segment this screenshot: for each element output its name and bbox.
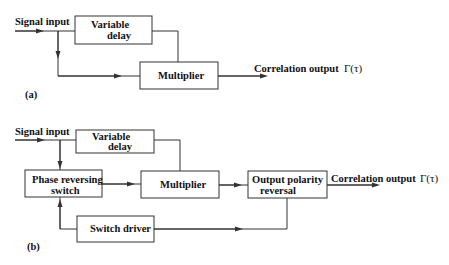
signal-input-label-a: Signal input: [15, 16, 70, 27]
driver-to-switch-line: [60, 197, 77, 229]
variable-delay-text-a-1: Variable: [91, 19, 129, 30]
polarity-text-2: reversal: [260, 185, 296, 196]
correlation-output-label-b: Correlation output: [331, 173, 416, 184]
delay-to-multiplier-line-b: [154, 140, 180, 171]
switch-driver-text: Switch driver: [90, 223, 151, 234]
variable-delay-text-b-2: delay: [108, 141, 133, 152]
multiplier-text-b: Multiplier: [160, 179, 206, 190]
phase-switch-text-2: switch: [51, 185, 80, 196]
diagram-a: Signal input Variable delay Multiplier C…: [15, 16, 362, 101]
gamma-tau-symbol-a: Γ(τ): [344, 62, 362, 75]
signal-input-label-b: Signal input: [15, 126, 70, 137]
polarity-text-1: Output polarity: [252, 174, 324, 185]
gamma-tau-symbol-b: Γ(τ): [420, 172, 438, 185]
panel-label-a: (a): [25, 89, 38, 101]
variable-delay-text-a-2: delay: [107, 30, 132, 41]
panel-label-b: (b): [27, 241, 40, 253]
phase-switch-text-1: Phase reversing: [32, 174, 103, 185]
diagram-b: Signal input Variable delay Phase revers…: [15, 126, 438, 253]
multiplier-text-a: Multiplier: [158, 70, 204, 81]
delay-to-multiplier-line-a: [152, 31, 178, 62]
correlator-block-diagram: Signal input Variable delay Multiplier C…: [0, 0, 449, 265]
correlation-output-label-a: Correlation output: [254, 63, 339, 74]
driver-to-polarity-line: [154, 198, 287, 229]
